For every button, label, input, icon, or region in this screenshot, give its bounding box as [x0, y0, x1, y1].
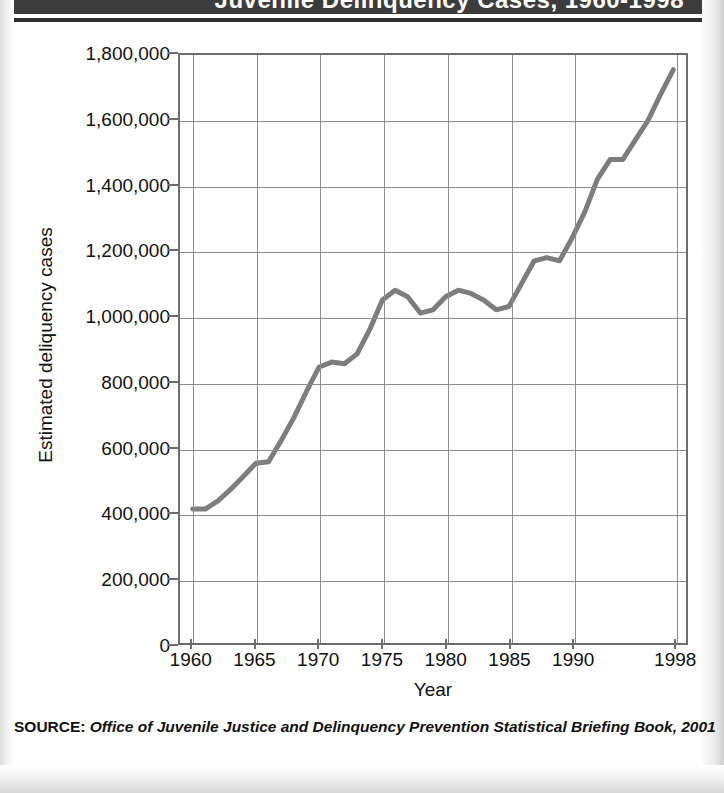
gridline-vertical — [512, 55, 513, 643]
y-axis-tick-mark — [168, 447, 178, 449]
y-axis-tick-mark — [168, 52, 178, 54]
y-axis-tick-label: 0 — [20, 636, 170, 655]
x-axis-tick-mark — [254, 639, 256, 649]
gridline-vertical — [384, 55, 385, 643]
y-axis-tick-label: 1,200,000 — [20, 241, 170, 260]
y-axis-tick-labels: 0200,000400,000600,000800,0001,000,0001,… — [14, 53, 170, 645]
x-axis-tick-mark — [317, 639, 319, 649]
gridline-vertical — [320, 55, 321, 643]
gridline-vertical — [257, 55, 258, 643]
title-underline-rule — [14, 18, 702, 22]
y-axis-tick-label: 400,000 — [20, 504, 170, 523]
y-axis-tick-label: 200,000 — [20, 570, 170, 589]
y-axis-tick-label: 1,600,000 — [20, 109, 170, 128]
y-axis-tick-mark — [168, 512, 178, 514]
y-axis-tick-label: 800,000 — [20, 372, 170, 391]
x-axis-tick-mark — [674, 639, 676, 649]
chart-figure: Estimated deliquency cases 0200,000400,0… — [14, 24, 702, 764]
x-axis-tick-mark — [190, 639, 192, 649]
x-axis-tick-mark — [445, 639, 447, 649]
chart-title: Juvenile Delinquency Cases, 1960-1998 — [14, 0, 702, 13]
chart-title-bar: Juvenile Delinquency Cases, 1960-1998 — [14, 0, 702, 14]
x-axis-tick-label: 1998 — [635, 649, 715, 671]
x-axis-tick-mark — [381, 639, 383, 649]
scanned-page: Juvenile Delinquency Cases, 1960-1998 Es… — [0, 0, 724, 793]
source-text: Office of Juvenile Justice and Delinquen… — [90, 718, 716, 735]
y-axis-tick-mark — [168, 381, 178, 383]
y-axis-tick-label: 600,000 — [20, 438, 170, 457]
x-axis-tick-mark — [509, 639, 511, 649]
y-axis-tick-mark — [168, 249, 178, 251]
y-axis-tick-mark — [168, 184, 178, 186]
source-label: SOURCE: — [14, 718, 85, 735]
page-edge-left-shading — [0, 0, 14, 793]
y-axis-tick-mark — [168, 578, 178, 580]
y-axis-tick-label: 1,400,000 — [20, 175, 170, 194]
x-axis-tick-mark — [572, 639, 574, 649]
x-axis-title: Year — [178, 679, 688, 701]
y-axis-tick-mark — [168, 118, 178, 120]
plot-area — [178, 53, 688, 645]
x-axis-tick-label: 1990 — [533, 649, 613, 671]
x-axis-tick-labels: 19601965197019751980198519901998 — [178, 649, 688, 679]
gridline-vertical — [448, 55, 449, 643]
gridline-vertical — [193, 55, 194, 643]
gridline-vertical — [575, 55, 576, 643]
y-axis-tick-mark — [168, 315, 178, 317]
y-axis-tick-label: 1,800,000 — [20, 44, 170, 63]
page-edge-bottom-shading — [0, 765, 724, 793]
source-note: SOURCE: Office of Juvenile Justice and D… — [14, 718, 702, 736]
y-axis-tick-label: 1,000,000 — [20, 307, 170, 326]
page-edge-right-shading — [702, 0, 724, 793]
y-axis-tick-mark — [168, 644, 178, 646]
gridline-vertical — [677, 55, 678, 643]
